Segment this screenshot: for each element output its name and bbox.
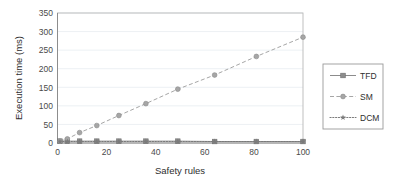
- y-tick-label: 50: [44, 120, 54, 130]
- legend-marker-tfd: [341, 73, 346, 78]
- legend-label-tfd: TFD: [360, 71, 377, 81]
- y-tick-label: 350: [39, 8, 53, 18]
- y-tick-label: 250: [39, 45, 53, 55]
- chart-figure: 350 300 250 200 150 100 50 0 0 20 40 60 …: [0, 0, 398, 185]
- x-axis-title: Safety rules: [155, 165, 205, 176]
- x-tick-label: 20: [102, 147, 112, 157]
- data-point-sm: [77, 130, 82, 135]
- y-axis-tick-labels: 350 300 250 200 150 100 50 0: [39, 8, 53, 148]
- data-point-sm: [94, 123, 99, 128]
- x-tick-label: 0: [55, 147, 60, 157]
- y-tick-label: 100: [39, 101, 53, 111]
- data-point-sm: [301, 35, 306, 40]
- line-chart: 350 300 250 200 150 100 50 0 0 20 40 60 …: [0, 0, 398, 185]
- x-tick-label: 60: [200, 147, 210, 157]
- plot-area-frame: [58, 13, 304, 143]
- data-point-sm: [143, 101, 148, 106]
- data-point-sm: [175, 87, 180, 92]
- y-axis-title: Execution time (ms): [13, 36, 24, 120]
- y-tick-label: 0: [48, 138, 53, 148]
- y-tick-label: 150: [39, 83, 53, 93]
- legend-label-sm: SM: [360, 92, 373, 102]
- data-point-sm: [116, 113, 121, 118]
- y-tick-label: 200: [39, 64, 53, 74]
- x-tick-label: 40: [151, 147, 161, 157]
- data-point-sm: [212, 73, 217, 78]
- data-point-sm: [254, 54, 259, 59]
- x-axis-tick-labels: 0 20 40 60 80 100: [55, 147, 310, 157]
- legend-label-dcm: DCM: [360, 113, 379, 123]
- x-tick-label: 80: [249, 147, 259, 157]
- y-tick-label: 300: [39, 27, 53, 37]
- gridlines: [58, 13, 304, 124]
- x-tick-label: 100: [296, 147, 310, 157]
- legend-marker-sm: [341, 94, 346, 99]
- data-series-layer: [57, 35, 306, 144]
- series-sm: [58, 35, 306, 144]
